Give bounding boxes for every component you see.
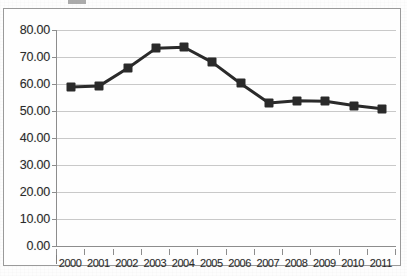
data-point-marker: [95, 81, 104, 90]
x-axis-tick: [197, 249, 198, 255]
series-polyline: [71, 47, 382, 109]
data-point-marker: [123, 64, 132, 73]
y-axis-label: 10.00: [20, 212, 50, 226]
data-point-marker: [377, 104, 386, 113]
data-point-marker: [321, 97, 330, 106]
x-axis-band: 2000200120022003200420052006200720082009…: [56, 249, 396, 271]
y-axis-label: 60.00: [20, 77, 50, 91]
data-point-marker: [180, 43, 189, 52]
x-axis-label: 2009: [313, 257, 336, 269]
x-axis-label: 2006: [228, 257, 251, 269]
y-axis-label: 40.00: [20, 131, 50, 145]
x-axis-label: 2001: [87, 257, 110, 269]
chart-frame: 0.0010.0020.0030.0040.0050.0060.0070.008…: [3, 8, 401, 266]
x-axis-tick: [56, 249, 57, 255]
x-axis-label: 2010: [341, 257, 364, 269]
x-axis-label: 2005: [200, 257, 223, 269]
x-axis-tick: [113, 249, 114, 255]
series-line: [57, 30, 396, 246]
y-axis-label: 80.00: [20, 23, 50, 37]
data-point-marker: [264, 98, 273, 107]
x-axis-tick: [339, 249, 340, 255]
x-axis-tick: [310, 249, 311, 255]
x-axis-tick: [395, 249, 396, 255]
x-axis-tick: [282, 249, 283, 255]
y-axis-label: 70.00: [20, 50, 50, 64]
data-point-marker: [293, 96, 302, 105]
x-axis-label: 2004: [172, 257, 195, 269]
data-point-marker: [67, 82, 76, 91]
data-point-marker: [208, 58, 217, 67]
x-axis-label: 2007: [256, 257, 279, 269]
y-axis-label: 30.00: [20, 158, 50, 172]
data-point-marker: [151, 44, 160, 53]
y-axis-label: 50.00: [20, 104, 50, 118]
data-point-marker: [349, 101, 358, 110]
x-axis-tick: [367, 249, 368, 255]
data-point-marker: [236, 79, 245, 88]
x-axis-tick: [169, 249, 170, 255]
cropped-title-remnant: [68, 0, 86, 4]
plot-area: 0.0010.0020.0030.0040.0050.0060.0070.008…: [56, 30, 396, 247]
y-axis-tick: [52, 246, 57, 247]
x-axis-tick: [254, 249, 255, 255]
x-axis-label: 2000: [59, 257, 82, 269]
x-axis-tick: [84, 249, 85, 255]
x-axis-label: 2011: [370, 257, 392, 269]
x-axis-tick: [141, 249, 142, 255]
y-axis-label: 20.00: [20, 185, 50, 199]
x-axis-label: 2003: [143, 257, 166, 269]
x-axis-label: 2002: [115, 257, 138, 269]
x-axis-tick: [226, 249, 227, 255]
x-axis-label: 2008: [285, 257, 308, 269]
y-axis-label: 0.00: [26, 239, 50, 253]
